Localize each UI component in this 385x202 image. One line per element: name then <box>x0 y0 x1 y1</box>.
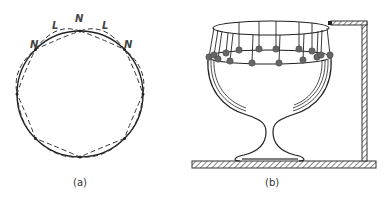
caption-a: (a) <box>73 177 87 188</box>
arm-clamp <box>328 21 332 25</box>
label-node-right: N <box>124 39 133 50</box>
pendulum-strings <box>209 21 330 63</box>
stand-arm <box>331 21 367 25</box>
label-node-left: N <box>30 39 39 50</box>
pendulum-bobs <box>206 46 333 66</box>
label-node-top: N <box>75 13 84 24</box>
caption-b: (b) <box>265 177 279 188</box>
base-plate <box>192 161 376 168</box>
figure: N L N L N (a) <box>0 0 385 202</box>
panel-b: (b) <box>192 21 376 188</box>
glass <box>208 58 331 161</box>
stand-post <box>362 22 367 161</box>
label-loop-left: L <box>52 20 58 31</box>
label-loop-right: L <box>102 20 108 31</box>
panel-a: N L N L N (a) <box>16 13 145 188</box>
